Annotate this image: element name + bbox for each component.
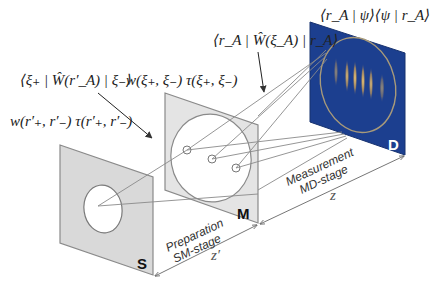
mask-wigner-formula: ⟨ξ₊ | Ŵ(r′_A) | ξ₋⟩ xyxy=(20,72,132,89)
mask-function-formula: w(ξ₊, ξ₋) τ(ξ₊, ξ₋) xyxy=(126,72,237,89)
preparation-stage-label: Preparation SM-stage xyxy=(163,216,231,267)
detector-wigner-formula: ⟨r_A | Ŵ(ξ_A) | r_A⟩ xyxy=(213,32,338,49)
source-panel-label: S xyxy=(137,255,147,272)
detector-intensity-formula: ⟨r_A | ψ⟩⟨ψ | r_A⟩ xyxy=(320,7,430,23)
detector-wigner-pointer xyxy=(258,52,264,92)
measurement-stage-label: Measurement MD-stage xyxy=(283,145,362,201)
mask-panel-label: M xyxy=(237,205,250,222)
propagation-diagram: S M D xyxy=(0,0,435,285)
measurement-distance: z xyxy=(329,187,336,203)
source-panel: S xyxy=(60,145,153,275)
preparation-distance: z′ xyxy=(210,247,221,263)
detector-panel-label: D xyxy=(388,136,399,153)
source-function-formula: w(r′₊, r′₋) τ(r′₊, r′₋) xyxy=(10,113,132,130)
